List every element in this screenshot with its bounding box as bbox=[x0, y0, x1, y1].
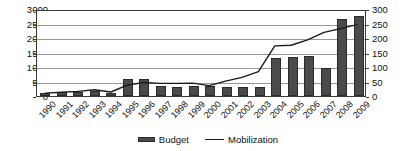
legend-label-budget: Budget bbox=[159, 134, 189, 145]
right-tick-mark bbox=[366, 97, 369, 98]
line-swatch-icon bbox=[205, 139, 224, 140]
right-tick-label: 200 bbox=[372, 34, 406, 43]
legend-item-mobilization: Mobilization bbox=[205, 134, 278, 145]
chart-legend: Budget Mobilization bbox=[0, 134, 416, 145]
right-tick-mark bbox=[366, 25, 369, 26]
plot-area bbox=[36, 10, 366, 97]
right-tick-label: 250 bbox=[372, 20, 406, 29]
line-series-mobilization bbox=[37, 10, 365, 96]
right-tick-label: 300 bbox=[372, 5, 406, 14]
right-tick-mark bbox=[366, 83, 369, 84]
right-tick-mark bbox=[366, 39, 369, 40]
chart-container: 050010001500200025003000 050100150200250… bbox=[0, 0, 416, 151]
legend-item-budget: Budget bbox=[138, 134, 189, 145]
right-tick-mark bbox=[366, 54, 369, 55]
x-axis-labels: 1990199119921993199419951996199719981999… bbox=[36, 99, 366, 135]
right-tick-label: 150 bbox=[372, 49, 406, 58]
left-tick-mark bbox=[33, 97, 36, 98]
bar-swatch-icon bbox=[138, 137, 155, 142]
right-tick-label: 100 bbox=[372, 63, 406, 72]
right-tick-mark bbox=[366, 68, 369, 69]
right-tick-mark bbox=[366, 10, 369, 11]
right-tick-label: 0 bbox=[372, 92, 406, 101]
right-tick-label: 50 bbox=[372, 78, 406, 87]
legend-label-mobilization: Mobilization bbox=[228, 134, 278, 145]
